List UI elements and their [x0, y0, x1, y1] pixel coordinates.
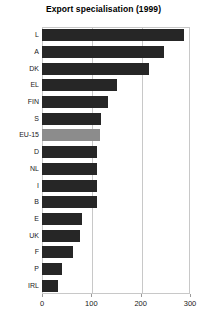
bar-el	[42, 79, 117, 91]
bar-p	[42, 263, 62, 275]
y-tick-label-p: P	[0, 265, 39, 273]
y-tick-label-d: D	[0, 148, 39, 156]
bar-a	[42, 46, 164, 58]
x-tick-mark-300	[190, 294, 191, 297]
bar-b	[42, 196, 97, 208]
bar-irl	[42, 280, 58, 292]
bar-l	[42, 29, 184, 41]
x-tick-label-100: 100	[85, 299, 98, 308]
bar-dk	[42, 63, 149, 75]
y-tick-label-b: B	[0, 198, 39, 206]
y-axis-labels: LADKELFINSEU-15DNLIBEUKFPIRL	[0, 27, 39, 294]
y-tick-label-uk: UK	[0, 232, 39, 240]
bar-uk	[42, 230, 80, 242]
y-tick-label-el: EL	[0, 81, 39, 89]
x-tick-label-200: 200	[134, 299, 147, 308]
y-tick-label-fin: FIN	[0, 98, 39, 106]
x-tick-label-0: 0	[40, 299, 44, 308]
y-tick-label-nl: NL	[0, 165, 39, 173]
bar-e	[42, 213, 82, 225]
x-tick-mark-0	[42, 294, 43, 297]
bar-fin	[42, 96, 108, 108]
y-tick-label-f: F	[0, 248, 39, 256]
bar-d	[42, 146, 97, 158]
y-tick-label-s: S	[0, 115, 39, 123]
bar-nl	[42, 163, 97, 175]
chart-title: Export specialisation (1999)	[0, 4, 207, 14]
y-tick-label-a: A	[0, 48, 39, 56]
bar-i	[42, 180, 97, 192]
bar-s	[42, 113, 101, 125]
x-tick-mark-200	[141, 294, 142, 297]
bar-f	[42, 246, 73, 258]
y-tick-label-dk: DK	[0, 65, 39, 73]
y-tick-label-e: E	[0, 215, 39, 223]
y-tick-label-l: L	[0, 31, 39, 39]
bar-eu-15	[42, 129, 100, 141]
y-tick-label-eu-15: EU-15	[0, 131, 39, 139]
bars-layer	[42, 27, 190, 294]
x-tick-mark-100	[91, 294, 92, 297]
y-tick-label-i: I	[0, 182, 39, 190]
chart-container: Export specialisation (1999) LADKELFINSE…	[0, 0, 207, 324]
y-tick-label-irl: IRL	[0, 282, 39, 290]
x-tick-label-300: 300	[184, 299, 197, 308]
